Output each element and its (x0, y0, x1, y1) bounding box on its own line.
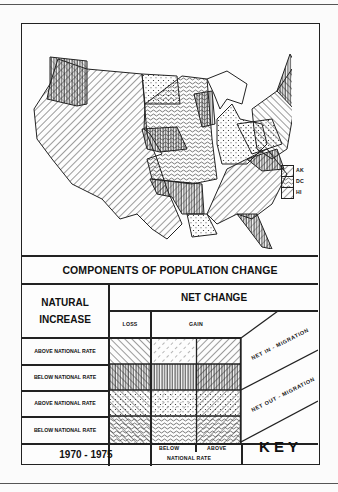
row-label-3: ABOVE NATIONAL RATE (22, 390, 108, 416)
gain-below-label: BELOW (159, 445, 179, 451)
loss-label: LOSS (110, 312, 150, 336)
page-top-rule (0, 4, 338, 5)
natural-increase-header: NATURAL INCREASE (22, 285, 108, 337)
figure-title: COMPONENTS OF POPULATION CHANGE (22, 256, 318, 284)
inset-label-hi: HI (296, 189, 302, 195)
key-label: KEY (243, 428, 318, 464)
page-bottom-rule (0, 483, 338, 484)
gain-label: GAIN (152, 312, 240, 336)
row-label-2: BELOW NATIONAL RATE (22, 364, 108, 390)
migration-panel: NET IN - MIGRATION NET OUT - MIGRATION (241, 283, 318, 444)
inset-legend: AK DC HI (281, 165, 321, 205)
natural-label: NATURAL (41, 294, 89, 311)
increase-label: INCREASE (39, 311, 91, 328)
figure-frame: AK DC HI COMPONENTS OF POPULATION CHANGE… (21, 23, 320, 465)
gain-above-label: ABOVE (207, 445, 226, 451)
us-map (32, 49, 292, 249)
below-above-divider (195, 443, 197, 452)
inset-label-dc: DC (296, 178, 304, 184)
row-label-4: BELOW NATIONAL RATE (22, 416, 108, 443)
bottom-divider-1 (150, 443, 152, 464)
inset-label-ak: AK (296, 167, 304, 173)
pattern-grid (109, 338, 241, 443)
period-label: 1970 - 1975 (22, 444, 150, 464)
national-rate-label: NATIONAL RATE (167, 455, 211, 461)
row-label-1: ABOVE NATIONAL RATE (22, 338, 108, 364)
